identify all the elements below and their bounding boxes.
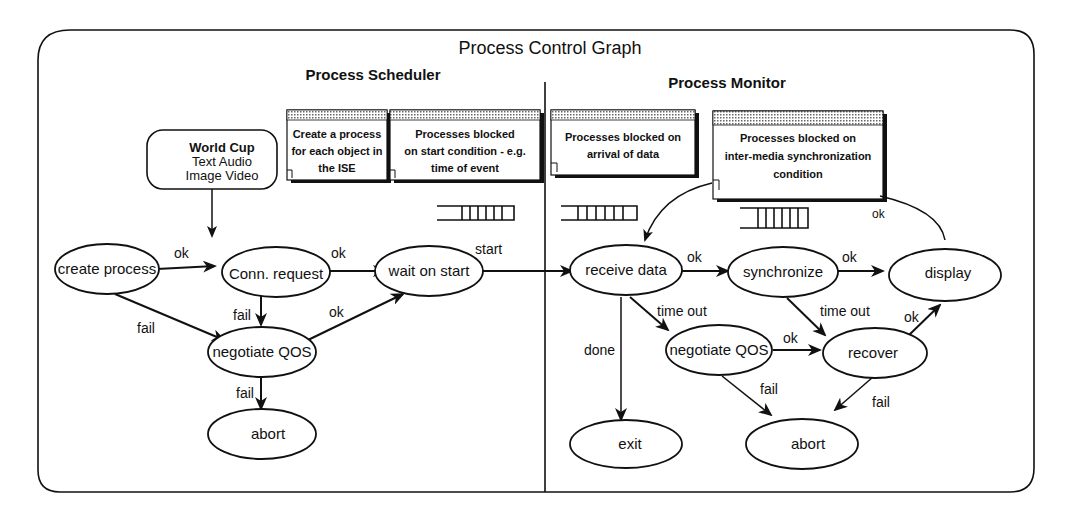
svg-text:recover: recover <box>848 344 898 361</box>
svg-text:ok: ok <box>174 245 190 261</box>
svg-text:ok: ok <box>872 207 886 221</box>
node-receive-data: receive data <box>570 245 682 295</box>
queue-icon <box>437 206 514 220</box>
svg-text:exit: exit <box>618 435 642 452</box>
svg-text:World Cup: World Cup <box>189 140 255 155</box>
svg-text:Image Video: Image Video <box>186 168 259 183</box>
svg-text:condition: condition <box>773 168 823 180</box>
node-recover: recover <box>823 328 927 378</box>
section-title-scheduler: Process Scheduler <box>305 66 440 83</box>
svg-text:fail: fail <box>236 385 254 401</box>
node-exit: exit <box>570 420 682 468</box>
queue-icon <box>740 208 808 228</box>
node-create-process: create process <box>55 244 159 294</box>
queue-icon <box>561 206 637 220</box>
svg-text:display: display <box>925 264 972 281</box>
svg-text:create process: create process <box>58 260 156 277</box>
svg-text:ok: ok <box>842 249 858 265</box>
svg-text:Conn. request: Conn. request <box>229 265 324 282</box>
svg-text:fail: fail <box>137 320 155 336</box>
node-negotiate-qos-left: negotiate QOS <box>208 327 316 377</box>
note-create-process: Create a process for each object in the … <box>287 110 391 183</box>
svg-text:fail: fail <box>760 381 778 397</box>
node-display: display <box>889 249 1001 301</box>
svg-text:fail: fail <box>233 307 251 323</box>
media-source-box: World Cup Text Audio Image Video <box>147 130 277 189</box>
svg-text:the ISE: the ISE <box>318 162 355 174</box>
svg-text:Processes blocked on: Processes blocked on <box>740 132 856 144</box>
svg-text:ok: ok <box>687 249 703 265</box>
node-conn-request: Conn. request <box>222 247 330 297</box>
node-synchronize: synchronize <box>728 247 838 297</box>
svg-text:time out: time out <box>657 303 707 319</box>
svg-text:start: start <box>475 241 502 257</box>
svg-text:Create a process: Create a process <box>293 128 382 140</box>
svg-text:Processes blocked on: Processes blocked on <box>565 131 681 143</box>
note-blocked-sync: Processes blocked on inter-media synchro… <box>713 111 887 202</box>
svg-text:abort: abort <box>791 435 826 452</box>
svg-text:negotiate QOS: negotiate QOS <box>212 343 311 360</box>
svg-text:done: done <box>584 342 615 358</box>
svg-text:negotiate QOS: negotiate QOS <box>669 341 768 358</box>
svg-text:ok: ok <box>904 309 920 325</box>
svg-text:receive data: receive data <box>585 261 667 278</box>
svg-text:on start condition - e.g.: on start condition - e.g. <box>404 145 526 157</box>
note-blocked-data: Processes blocked on arrival of data <box>551 110 699 178</box>
svg-text:for each object in: for each object in <box>291 145 382 157</box>
process-control-graph: Process Control Graph Process Scheduler … <box>0 0 1072 519</box>
node-abort-left: abort <box>208 409 316 459</box>
svg-text:abort: abort <box>251 425 286 442</box>
node-negotiate-qos-right: negotiate QOS <box>666 325 772 375</box>
note-blocked-start: Processes blocked on start condition - e… <box>390 110 544 183</box>
svg-text:fail: fail <box>872 394 890 410</box>
outer-frame <box>38 30 1034 492</box>
svg-text:wait on start: wait on start <box>388 262 471 279</box>
svg-text:ok: ok <box>783 330 799 346</box>
svg-text:synchronize: synchronize <box>743 263 823 280</box>
svg-text:inter-media synchronization: inter-media synchronization <box>725 150 872 162</box>
svg-text:Text Audio: Text Audio <box>192 154 252 169</box>
section-title-monitor: Process Monitor <box>668 74 786 91</box>
svg-text:ok: ok <box>331 245 347 261</box>
svg-text:Processes blocked: Processes blocked <box>415 128 515 140</box>
svg-text:time out: time out <box>820 303 870 319</box>
svg-text:arrival of data: arrival of data <box>587 148 660 160</box>
svg-text:ok: ok <box>329 304 345 320</box>
node-wait-on-start: wait on start <box>375 246 483 296</box>
diagram-title: Process Control Graph <box>458 38 641 58</box>
svg-text:time of event: time of event <box>431 162 499 174</box>
node-abort-right: abort <box>746 419 858 469</box>
